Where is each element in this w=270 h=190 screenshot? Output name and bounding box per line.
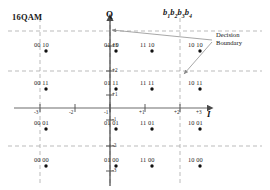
q-axis-label: Q	[106, 10, 113, 19]
point-label-0100: 01 00	[104, 157, 119, 163]
point-1011	[198, 87, 201, 90]
point-0010	[44, 49, 47, 52]
y-tick-plus2: +2	[112, 68, 118, 73]
y-tick-minus2: -2	[112, 143, 116, 148]
point-label-0101: 01 01	[104, 120, 119, 126]
point-label-1001: 10 01	[188, 120, 203, 126]
point-0101	[114, 127, 117, 130]
figure-title: 16QAM	[12, 13, 42, 22]
point-label-0001: 00 01	[34, 120, 49, 126]
y-tick-plus1: +1	[112, 92, 118, 97]
point-label-1010: 10 10	[188, 42, 203, 48]
point-label-1000: 10 00	[188, 157, 203, 163]
arrow-to-vertical-boundary	[112, 30, 212, 40]
figure-canvas: 16QAM b1b2b3b4 Q I -3 -2 -1 +1 +2 +3 +3 …	[0, 0, 270, 190]
x-tick-minus1: -1	[104, 110, 108, 115]
point-label-1111: 11 11	[140, 80, 154, 86]
point-1111	[150, 87, 153, 90]
point-label-0011: 00 11	[34, 80, 49, 86]
point-label-0000: 00 00	[34, 157, 49, 163]
x-tick-plus2: +2	[174, 110, 180, 115]
point-1010	[198, 49, 201, 52]
point-label-1011: 10 11	[188, 80, 203, 86]
y-tick-minus3: -3	[112, 168, 116, 173]
bit-header-i4: 4	[189, 13, 192, 19]
point-1110	[150, 49, 153, 52]
i-axis-label: I	[207, 110, 211, 119]
point-label-0111: 01 11	[104, 80, 119, 86]
x-tick-minus2: -2	[69, 110, 73, 115]
point-1101	[150, 127, 153, 130]
x-tick-minus3: -3	[34, 110, 38, 115]
callout-arrows	[112, 30, 212, 74]
x-tick-plus1: +1	[139, 110, 145, 115]
bit-order-header: b1b2b3b4	[163, 8, 192, 19]
callout-line-2: Boundary	[216, 39, 242, 47]
point-0011	[44, 87, 47, 90]
point-0110	[114, 49, 117, 52]
x-tick-plus3: +3	[196, 110, 202, 115]
point-1001	[198, 127, 201, 130]
point-label-0010: 00 10	[34, 42, 49, 48]
point-label-1101: 11 01	[140, 120, 155, 126]
point-1000	[198, 164, 201, 167]
point-1100	[150, 164, 153, 167]
decision-boundary-callout: Decision Boundary	[216, 31, 242, 48]
point-0000	[44, 164, 47, 167]
point-label-0110: 01 10	[104, 42, 119, 48]
point-label-1100: 11 00	[140, 157, 155, 163]
callout-line-1: Decision	[216, 31, 242, 39]
point-0001	[44, 127, 47, 130]
point-label-1110: 11 10	[140, 42, 155, 48]
